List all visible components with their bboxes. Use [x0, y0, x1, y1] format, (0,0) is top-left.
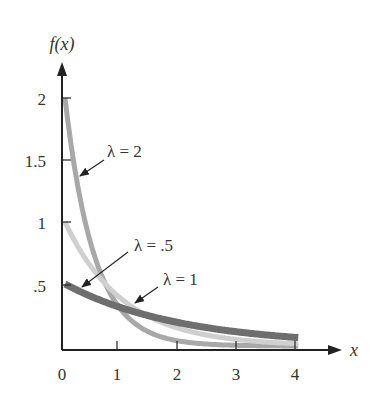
annotation-lambda-1: λ = 1 — [163, 270, 198, 289]
annotation-lambda-0-5: λ = .5 — [134, 236, 173, 255]
y-tick-label-2: 2 — [38, 90, 47, 109]
y-axis-label: f(x) — [50, 34, 75, 55]
y-tick-label-1: 1 — [38, 214, 47, 233]
x-axis-arrow-icon — [328, 345, 342, 355]
curves-group — [65, 98, 298, 346]
exponential-density-chart: 2 1.5 1 .5 0 1 2 3 4 f(x) x λ = 2 λ = .5… — [0, 0, 380, 405]
x-tick-label-1: 1 — [113, 365, 122, 384]
annotation-arrow-lambda-1 — [135, 287, 158, 303]
x-tick-label-3: 3 — [232, 365, 241, 384]
curve-lambda-2 — [65, 98, 298, 346]
x-tick-label-4: 4 — [291, 365, 300, 384]
x-tick-label-0: 0 — [58, 365, 67, 384]
y-axis-arrow-icon — [57, 62, 67, 76]
x-tick-label-2: 2 — [173, 365, 182, 384]
y-tick-label-0-5: .5 — [33, 277, 46, 296]
y-tick-label-1-5: 1.5 — [25, 152, 46, 171]
x-axis-label: x — [349, 340, 358, 360]
annotation-lambda-2: λ = 2 — [107, 142, 142, 161]
annotation-arrow-lambda-2 — [80, 160, 104, 176]
